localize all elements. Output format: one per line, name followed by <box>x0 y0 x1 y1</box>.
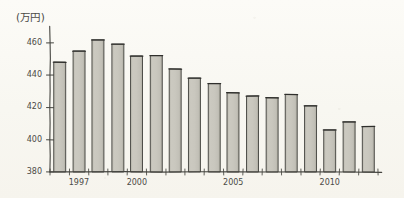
y-axis-tick-label: 440 <box>16 70 42 79</box>
bar <box>131 56 143 172</box>
bar <box>343 122 355 172</box>
hand-drawn-bar-chart <box>0 0 404 198</box>
bar <box>362 127 374 172</box>
bar <box>208 83 220 172</box>
bar <box>112 44 124 172</box>
bar <box>188 78 200 172</box>
x-axis-tick-label: 2000 <box>120 178 154 187</box>
y-axis-tick-label: 400 <box>16 135 42 144</box>
y-axis-line <box>50 26 51 172</box>
bar <box>285 94 297 172</box>
y-axis-tick-label: 460 <box>16 38 42 47</box>
bar <box>54 62 66 172</box>
bar <box>266 98 278 172</box>
bar <box>150 56 162 172</box>
y-axis-unit-label: (万円) <box>16 9 45 24</box>
y-axis-tick-label: 420 <box>16 102 42 111</box>
x-axis-line <box>50 172 382 173</box>
y-axis-tick-label: 380 <box>16 167 42 176</box>
x-axis-tick-label: 2005 <box>216 178 250 187</box>
x-axis-tick-label: 2010 <box>313 178 347 187</box>
bar <box>92 40 104 172</box>
bar <box>247 96 259 172</box>
bar <box>305 106 317 172</box>
bar <box>73 51 85 172</box>
bars-layer <box>53 40 374 172</box>
bar <box>324 130 336 172</box>
bar <box>227 93 239 172</box>
bar <box>169 69 181 172</box>
chart-page: (万円) 380400420440460 1997200020052010 <box>0 0 404 198</box>
x-axis-tick-label: 1997 <box>62 178 96 187</box>
